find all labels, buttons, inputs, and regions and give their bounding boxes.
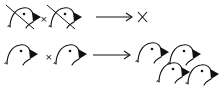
arrow-right-icon (93, 51, 130, 59)
cross-operator: × (45, 52, 53, 62)
bird-parent-left-crossed (6, 5, 41, 29)
bird-parent-left (5, 45, 38, 65)
bird-parent-right-crossed (47, 5, 82, 29)
arrow-right-icon (96, 13, 132, 21)
bird-offspring-3 (157, 63, 190, 83)
bird-offspring-4 (186, 65, 219, 85)
cross-operator: × (40, 14, 48, 24)
bird-offspring-1 (136, 43, 169, 63)
bird-cross-diagram: × × (0, 0, 219, 86)
bird-offspring-2 (168, 45, 201, 65)
no-offspring-x-icon (138, 12, 147, 22)
offspring-group (136, 43, 219, 85)
bird-parent-right (54, 45, 87, 65)
row-1: × (6, 5, 147, 29)
row-2: × (5, 43, 219, 85)
